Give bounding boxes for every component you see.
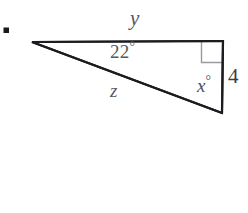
triangle-right-edge: [222, 41, 223, 113]
side-label-4: 4: [228, 66, 239, 87]
side-label-y: y: [130, 8, 139, 29]
angle-value-22: 22: [110, 41, 129, 62]
angle-label-x-degrees: x°: [197, 76, 211, 95]
angle-label-22-degrees: 22°: [110, 42, 135, 61]
degree-symbol-icon: °: [129, 39, 135, 54]
side-label-z: z: [110, 81, 117, 100]
degree-symbol-icon-2: °: [205, 73, 210, 88]
right-angle-marker-icon: [202, 42, 223, 63]
item-bullet-marker: [4, 28, 10, 34]
triangle-canvas: [0, 0, 248, 213]
geometry-figure: y 22° z x° 4: [0, 0, 248, 213]
